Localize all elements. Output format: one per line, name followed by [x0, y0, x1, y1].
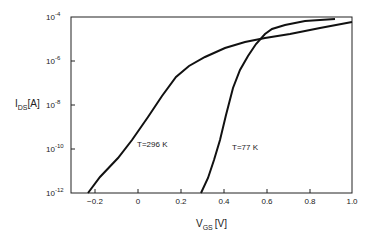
- x-tick-label: 0.4: [218, 197, 230, 206]
- annotation-77k: T=77 K: [232, 143, 259, 152]
- y-axis-label: IDS[A]: [15, 98, 40, 111]
- curve-296k: [88, 22, 352, 193]
- x-axis-label: VGS[V]: [196, 218, 227, 231]
- x-tick-label: 0.2: [175, 197, 187, 206]
- x-tick-label: 0: [136, 197, 141, 206]
- y-tick-label: 10-8: [46, 99, 61, 110]
- annotation-296k: T=296 K: [137, 140, 168, 149]
- y-tick-label: 10-12: [46, 187, 64, 198]
- x-axis: −0.2 0 0.2 0.4 0.6 0.8 1.0: [87, 189, 358, 206]
- x-tick-label: 1.0: [346, 197, 358, 206]
- y-tick-label: 10-6: [46, 55, 61, 66]
- x-tick-label: 0.8: [304, 197, 316, 206]
- y-tick-label: 10-4: [46, 11, 61, 22]
- chart: 10-4 10-6 10-8 10-10 10-12 −0.2 0 0.2 0.…: [0, 0, 373, 244]
- y-tick-label: 10-10: [46, 143, 64, 154]
- x-tick-label: −0.2: [87, 197, 103, 206]
- x-tick-label: 0.6: [261, 197, 273, 206]
- curve-77k: [201, 19, 335, 193]
